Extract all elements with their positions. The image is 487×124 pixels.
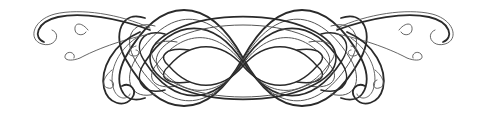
center-interlace	[119, 10, 366, 106]
calligraphic-ornament	[0, 0, 487, 124]
interlace-loop	[163, 47, 322, 85]
right-lower-leaf	[337, 34, 422, 60]
right-inner-curl	[399, 24, 412, 35]
right-scroll	[337, 12, 453, 104]
interlace-loop	[139, 28, 346, 95]
left-inner-curl	[75, 24, 88, 35]
